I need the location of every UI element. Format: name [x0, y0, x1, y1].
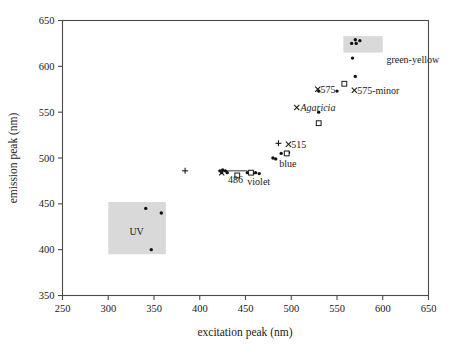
y-tick-label-450: 450: [39, 198, 55, 209]
data-point-filled-circle-15: [279, 152, 282, 155]
annotation-green-yellow: green-yellow: [386, 54, 440, 65]
data-point-open-square-1: [249, 170, 254, 175]
x-tick-label-600: 600: [375, 303, 391, 314]
y-tick-label-650: 650: [39, 15, 55, 26]
y-tick-label-400: 400: [39, 244, 55, 255]
data-point-filled-circle-23: [350, 42, 353, 45]
y-tick-label-350: 350: [39, 290, 55, 301]
annotation-515: 515: [291, 139, 306, 150]
annotation-agaricia: Agaricia: [299, 102, 335, 113]
x-tick-label-500: 500: [283, 303, 299, 314]
data-point-filled-circle-25: [354, 38, 357, 41]
x-tick-label-450: 450: [238, 303, 254, 314]
region-label-uv: UV: [129, 226, 144, 237]
data-point-filled-circle-2: [150, 248, 153, 251]
chart-canvas: UV 486violetblue515575Agaricia575-minorg…: [0, 0, 451, 349]
data-point-filled-circle-21: [354, 75, 357, 78]
y-tick-label-600: 600: [39, 61, 55, 72]
data-point-open-square-3: [316, 121, 321, 126]
shaded-region-green-yellow: [343, 36, 382, 53]
x-tick-label-400: 400: [192, 303, 208, 314]
x-tick-label-350: 350: [146, 303, 162, 314]
data-point-filled-circle-26: [358, 39, 361, 42]
x-tick-label-550: 550: [329, 303, 345, 314]
x-axis-tick-labels-group: 250300350400450500550600650: [55, 303, 437, 314]
x-tick-label-250: 250: [55, 303, 71, 314]
data-point-filled-circle-24: [355, 42, 358, 45]
data-point-filled-circle-12: [258, 172, 261, 175]
x-axis-title: excitation peak (nm): [197, 326, 292, 339]
scatter-plot-figure: UV 486violetblue515575Agaricia575-minorg…: [0, 0, 451, 349]
annotation-blue: blue: [279, 158, 297, 169]
data-point-filled-circle-14: [274, 157, 277, 160]
annotation-575-minor: 575-minor: [357, 85, 400, 96]
data-point-filled-circle-22: [351, 56, 354, 59]
annotation-575: 575: [321, 84, 336, 95]
chart-background: [0, 0, 451, 349]
data-point-filled-circle-1: [160, 211, 163, 214]
y-axis-title: emission peak (nm): [7, 112, 20, 203]
x-tick-label-300: 300: [100, 303, 116, 314]
data-point-filled-circle-0: [144, 207, 147, 210]
annotation-violet: violet: [247, 176, 270, 187]
y-tick-label-550: 550: [39, 107, 55, 118]
data-point-filled-circle-11: [254, 171, 257, 174]
annotation-486: 486: [228, 174, 243, 185]
data-point-open-square-2: [284, 151, 289, 156]
y-tick-label-500: 500: [39, 153, 55, 164]
x-tick-label-650: 650: [421, 303, 437, 314]
data-point-filled-circle-20: [335, 89, 338, 92]
data-point-open-square-4: [342, 81, 347, 86]
